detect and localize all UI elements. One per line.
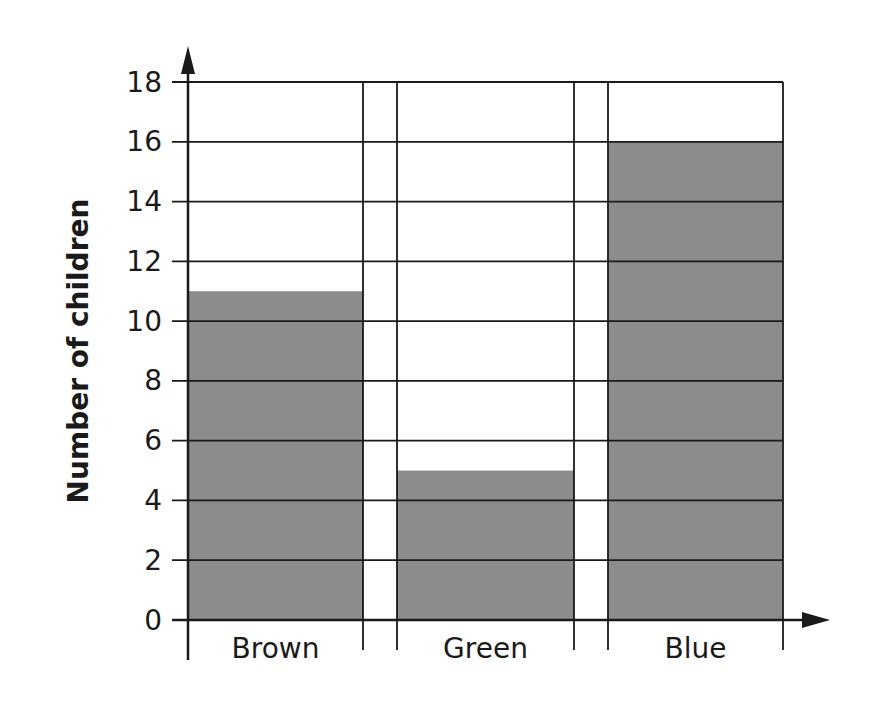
x-category-label: Blue [665, 632, 727, 665]
y-tick-label: 8 [144, 364, 162, 397]
y-tick-label: 0 [144, 604, 162, 637]
y-axis-ticks: 024681012141618 [126, 66, 162, 637]
y-tick-label: 2 [144, 544, 162, 577]
x-axis-category-labels: BrownGreenBlue [232, 632, 727, 665]
y-axis-arrow-icon [181, 46, 195, 74]
bar-green [397, 471, 574, 620]
y-tick-label: 16 [126, 125, 162, 158]
x-category-label: Brown [232, 632, 320, 665]
y-tick-label: 18 [126, 66, 162, 99]
y-tick-label: 12 [126, 245, 162, 278]
bar-chart: 024681012141618 BrownGreenBlue Number of… [0, 0, 875, 701]
y-tick-label: 6 [144, 424, 162, 457]
y-axis-title: Number of children [62, 199, 95, 504]
bar-brown [188, 291, 363, 620]
x-axis-arrow-icon [802, 612, 830, 628]
x-category-label: Green [443, 632, 528, 665]
y-tick-label: 10 [126, 305, 162, 338]
y-tick-label: 14 [126, 185, 162, 218]
y-tick-label: 4 [144, 484, 162, 517]
